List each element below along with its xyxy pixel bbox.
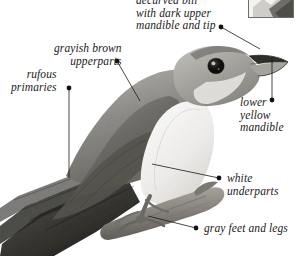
annotation-label-primaries: rufousprimaries (11, 68, 57, 93)
annotation-label-primaries-line-2: primaries (11, 81, 57, 94)
annotation-label-mandible-line-3: mandible (240, 121, 284, 134)
annotation-label-bill-line-2: with dark upper (136, 7, 216, 20)
annotation-label-upperparts-line-2: upperparts (54, 55, 122, 68)
field-guide-page: ry ow.” decurved billwith dark uppermand… (0, 0, 296, 256)
annotation-label-mandible-line-1: lower (240, 96, 284, 109)
annotation-label-mandible: loweryellowmandible (240, 96, 284, 134)
annotation-label-upperparts: grayish brownupperparts (54, 42, 122, 67)
annotation-label-feet-line-1: gray feet and legs (204, 222, 288, 235)
annotation-label-feet: gray feet and legs (204, 222, 288, 235)
range-map-thumbnail (248, 0, 294, 18)
annotation-label-underparts: whiteunderparts (227, 172, 278, 197)
annotation-label-bill: decurved billwith dark uppermandible and… (136, 0, 216, 32)
annotation-label-mandible-line-2: yellow (240, 109, 284, 122)
annotation-label-bill-line-1: decurved bill (136, 0, 216, 7)
annotation-label-upperparts-line-1: grayish brown (54, 42, 122, 55)
annotation-label-bill-line-3: mandible and tip (136, 19, 216, 32)
annotation-label-underparts-line-1: white (227, 172, 278, 185)
annotation-label-primaries-line-1: rufous (11, 68, 57, 81)
annotation-label-underparts-line-2: underparts (227, 185, 278, 198)
